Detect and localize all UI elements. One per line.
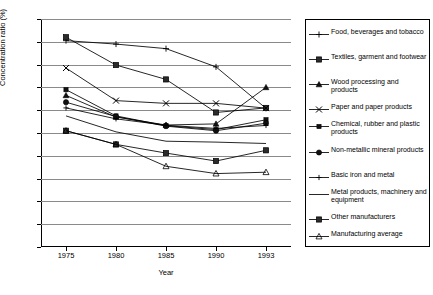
series-line xyxy=(66,87,266,125)
data-point-plus xyxy=(113,41,119,47)
data-point-square-filled xyxy=(163,77,168,82)
legend-item[interactable]: Paper and paper products xyxy=(308,103,412,115)
legend-marker-icon xyxy=(308,29,330,40)
data-point-square-filled xyxy=(113,62,118,67)
legend-item[interactable]: Basic iron and metal xyxy=(308,171,394,183)
series-8 xyxy=(63,128,268,164)
legend-item[interactable]: Chemical, rubber and plastic products xyxy=(308,120,427,137)
data-point-square-filled xyxy=(63,35,68,40)
legend-marker-icon xyxy=(308,172,330,183)
legend-label: Metal products, machinery and equipment xyxy=(330,188,427,205)
legend-label: Manufacturing average xyxy=(330,230,403,238)
data-point-circle-filled xyxy=(63,100,68,105)
legend-item[interactable]: Wood processing and products xyxy=(308,78,427,95)
legend-label: Chemical, rubber and plastic products xyxy=(330,120,427,137)
data-point-square-filled-2 xyxy=(213,158,218,163)
legend-item[interactable]: Metal products, machinery and equipment xyxy=(308,188,427,205)
legend-marker-icon xyxy=(308,189,330,200)
legend-label: Wood processing and products xyxy=(330,78,427,95)
y-axis-tick xyxy=(37,247,41,248)
legend-marker-icon xyxy=(308,121,330,132)
legend-marker-icon xyxy=(308,104,330,115)
legend-label: Textiles, garment and footwear xyxy=(330,53,426,61)
data-point-square-filled-2 xyxy=(316,217,321,222)
series-6 xyxy=(63,105,268,131)
x-axis-title: Year xyxy=(41,268,291,277)
chart-legend: Food, beverages and tobaccoTextiles, gar… xyxy=(305,19,430,247)
data-point-circle-filled xyxy=(316,150,321,155)
legend-label: Basic iron and metal xyxy=(330,171,394,179)
data-point-plus-thin xyxy=(63,105,68,110)
legend-item[interactable]: Other manufacturers xyxy=(308,213,395,225)
legend-marker-icon xyxy=(308,79,330,90)
legend-label: Food, beverages and tobacco xyxy=(330,28,424,36)
data-point-plus-thin xyxy=(316,175,321,180)
data-point-square-small-filled xyxy=(64,88,68,92)
series-line xyxy=(66,68,266,108)
x-axis-tick-label: 1993 xyxy=(236,251,296,260)
legend-marker-icon xyxy=(308,54,330,65)
legend-item[interactable]: Food, beverages and tobacco xyxy=(308,28,424,40)
legend-label: Other manufacturers xyxy=(330,213,395,221)
series-line xyxy=(66,131,266,161)
legend-marker-icon xyxy=(308,214,330,225)
series-0 xyxy=(63,38,269,112)
data-point-plus xyxy=(163,46,169,52)
data-point-square-filled-2 xyxy=(163,150,168,155)
legend-marker-icon xyxy=(308,147,330,158)
legend-marker-icon xyxy=(308,231,330,242)
legend-item[interactable]: Textiles, garment and footwear xyxy=(308,53,426,65)
data-point-cross-x xyxy=(63,65,69,71)
data-point-square-filled-2 xyxy=(263,148,268,153)
data-point-square-filled xyxy=(213,110,218,115)
legend-item[interactable]: Non-metallic mineral products xyxy=(308,146,424,158)
chart-figure: Concentration ratio (%) 0102030405060708… xyxy=(0,0,433,295)
legend-item[interactable]: Manufacturing average xyxy=(308,230,403,242)
data-point-square-filled xyxy=(316,57,321,62)
legend-label: Paper and paper products xyxy=(330,103,412,111)
data-point-triangle-filled xyxy=(63,92,69,97)
data-series-layer xyxy=(41,19,291,247)
legend-label: Non-metallic mineral products xyxy=(330,146,424,154)
plot-area: Concentration ratio (%) 0102030405060708… xyxy=(0,0,300,295)
data-point-square-small-filled xyxy=(317,124,321,128)
data-point-plus xyxy=(316,32,322,38)
y-axis-title: Concentration ratio (%) xyxy=(0,9,7,86)
data-point-triangle-filled xyxy=(263,84,269,89)
plot-canvas: 0102030405060708090100 19751980198519901… xyxy=(41,19,291,247)
